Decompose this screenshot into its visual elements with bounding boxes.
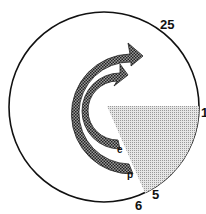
label-25: 25 — [160, 17, 174, 32]
cycle-diagram: 25 1 5 6 e p — [0, 0, 206, 214]
label-p: p — [127, 169, 133, 180]
label-6: 6 — [135, 198, 142, 213]
label-e: e — [117, 144, 123, 155]
label-1: 1 — [201, 105, 206, 120]
label-5: 5 — [152, 187, 159, 202]
diagram-canvas: 25 1 5 6 e p — [0, 0, 206, 214]
